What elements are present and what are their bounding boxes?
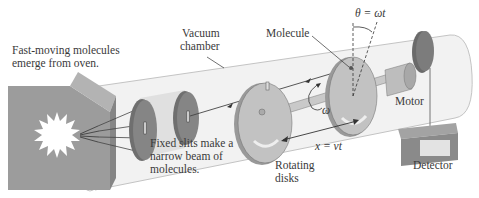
disks-label-line-2: disks xyxy=(275,172,315,185)
slits-caption-line-1: Fixed slits make a xyxy=(150,137,233,150)
motor-label: Motor xyxy=(395,95,424,108)
oven-caption: Fast-moving molecules emerge from oven. xyxy=(12,44,120,70)
slits-caption: Fixed slits make a narrow beam of molecu… xyxy=(150,137,233,176)
rotating-disk-1 xyxy=(234,82,292,165)
vacuum-chamber-label: Vacuum chamber xyxy=(180,27,220,53)
vacuum-leader-line xyxy=(207,57,224,68)
oven-caption-line-1: Fast-moving molecules xyxy=(12,44,120,57)
detector-label: Detector xyxy=(413,159,453,172)
rotating-disk-2 xyxy=(325,57,377,137)
omega-label: ω xyxy=(322,104,330,117)
theta-equation-label: θ = ωt xyxy=(355,7,385,20)
vacuum-label-line-2: chamber xyxy=(180,40,220,53)
slit-opening xyxy=(187,111,189,122)
slits-caption-line-3: molecules. xyxy=(150,163,233,176)
slits-caption-line-2: narrow beam of xyxy=(150,150,233,163)
oven-caption-line-2: emerge from oven. xyxy=(12,57,120,70)
molecule-dot xyxy=(349,66,353,70)
disks-label-line-1: Rotating xyxy=(275,159,315,172)
molecule-label: Molecule xyxy=(266,27,309,40)
diagram-canvas: Fast-moving molecules emerge from oven. … xyxy=(0,0,479,198)
distance-equation-label: x = vt xyxy=(315,140,342,153)
slit-opening xyxy=(144,122,146,134)
rotating-disks-label: Rotating disks xyxy=(275,159,315,185)
vacuum-label-line-1: Vacuum xyxy=(180,27,220,40)
